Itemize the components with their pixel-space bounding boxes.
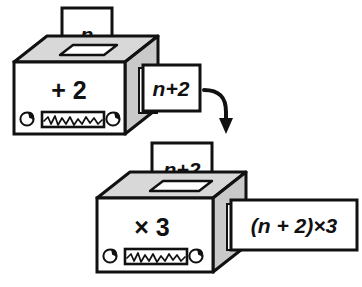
output-card-n-plus-2-label: n+2	[153, 77, 190, 100]
diagram-canvas: n + 2	[0, 0, 362, 287]
output-card-result-label: (n + 2)×3	[251, 214, 338, 237]
machine-add-two: n + 2	[14, 8, 200, 134]
curved-arrow-head	[219, 118, 233, 134]
machine2-left-knob-icon	[103, 249, 117, 263]
curved-arrow	[204, 90, 233, 134]
machine1-operation-label: + 2	[51, 76, 86, 104]
function-machine-figure: n + 2	[0, 0, 362, 287]
output-card-result: (n + 2)×3	[231, 200, 357, 250]
machine1-right-knob-icon	[106, 112, 120, 126]
machine2-input-slot	[150, 181, 212, 191]
machine2-operation-label: × 3	[134, 213, 169, 241]
machine-times-three: n+2 × 3	[97, 143, 357, 272]
machine1-left-knob-icon	[20, 112, 34, 126]
machine2-right-knob-icon	[189, 249, 203, 263]
output-card-n-plus-2: n+2	[143, 65, 200, 111]
curved-arrow-shaft	[204, 90, 226, 122]
